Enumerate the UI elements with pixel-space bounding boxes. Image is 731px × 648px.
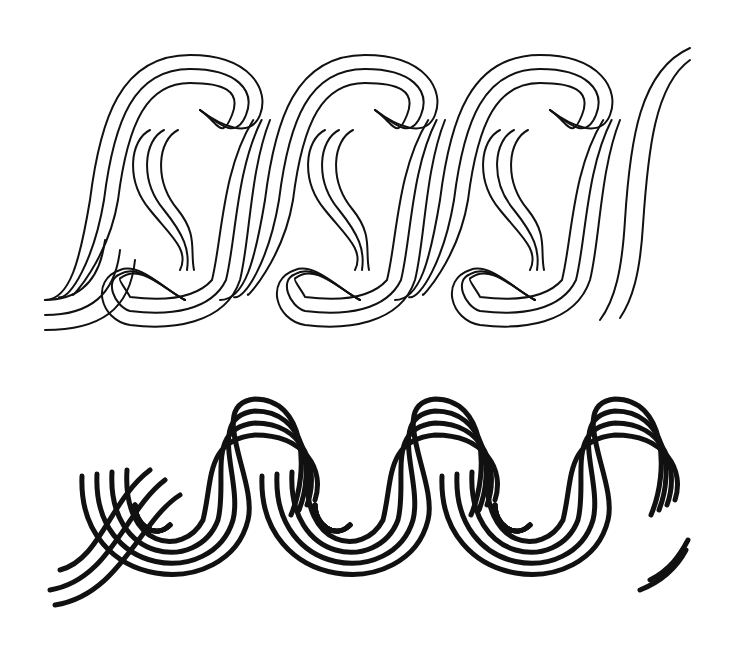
wave-ornament-illustration [0,0,731,648]
